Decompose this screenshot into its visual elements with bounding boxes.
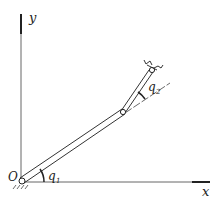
diagram-svg: y x O q 1 q 2	[0, 0, 223, 205]
q2-angle-arc	[138, 92, 145, 99]
q2-label: q	[148, 80, 156, 94]
ground-hatch-icon	[13, 185, 28, 189]
gripper-icon	[144, 60, 163, 70]
origin-label: O	[8, 170, 18, 184]
elbow-joint-icon	[120, 109, 125, 114]
link-1	[20, 109, 125, 183]
q1-subscript: 1	[56, 177, 60, 185]
q1-angle-arc	[40, 169, 44, 182]
base-joint-icon	[19, 178, 25, 184]
manipulator-diagram: y x O q 1 q 2	[0, 0, 223, 205]
q1-label: q	[48, 169, 56, 183]
x-axis-label: x	[202, 184, 210, 199]
q2-subscript: 2	[155, 88, 161, 96]
y-axis-label: y	[28, 10, 37, 25]
